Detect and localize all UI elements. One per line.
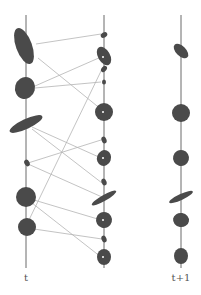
ellipse-node [16,187,36,207]
connection-line [34,229,102,239]
center-dot [102,256,104,258]
ellipse-node [94,44,114,67]
ellipse-node [100,136,107,144]
ellipse-node [12,75,37,101]
center-dot [102,111,104,113]
connection-line [32,129,102,183]
ellipse-node [172,212,190,229]
ellipse-node [172,104,190,122]
ellipse-node [102,80,106,85]
connection-line [36,34,101,44]
center-dot [102,157,104,159]
ellipse-node [18,218,36,236]
ellipse-correspondence-diagram: t t+1 [0,0,201,295]
ellipse-node [174,248,188,264]
connection-line [28,140,101,163]
connection-line [28,69,102,222]
ellipse-node [100,235,107,243]
label-t: t [24,272,28,283]
connection-line [34,200,101,220]
connection-line [28,164,102,197]
center-dot [102,56,104,58]
center-dot [102,219,104,221]
connection-line [35,82,101,88]
ellipse-node [10,25,38,66]
ellipse-node [171,148,191,168]
label-t-plus-1: t+1 [172,272,191,283]
ellipse-node [100,178,107,186]
ellipse-node [23,159,31,168]
connection-lines [28,34,102,257]
connection-line [38,58,102,110]
connection-line [35,57,101,86]
